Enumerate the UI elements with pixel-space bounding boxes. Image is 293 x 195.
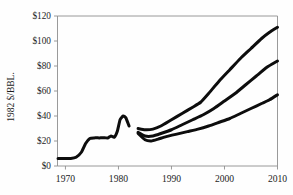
x-axis-ticks: 19701980199020002010 — [56, 166, 287, 184]
x-tick-label: 1970 — [56, 173, 75, 184]
x-tick-label: 1990 — [162, 173, 181, 184]
series-high-projection — [138, 27, 277, 130]
chart-container: $0$20$40$60$80$100$120 19701980199020002… — [0, 0, 293, 195]
series-historical — [58, 116, 129, 159]
line-chart: $0$20$40$60$80$100$120 19701980199020002… — [0, 0, 293, 195]
y-tick-label: $120 — [32, 11, 51, 21]
y-tick-label: $80 — [37, 61, 51, 71]
x-tick-label: 2010 — [268, 173, 287, 184]
y-tick-label: $20 — [37, 136, 51, 146]
data-series-group — [58, 27, 277, 158]
x-tick-label: 1980 — [109, 173, 128, 184]
y-tick-label: $40 — [37, 111, 51, 121]
chart-frame — [58, 16, 278, 166]
x-tick-label: 2000 — [215, 173, 234, 184]
y-axis-title: 1982 $/BBL. — [6, 72, 16, 122]
y-tick-label: $100 — [32, 36, 51, 46]
y-axis-ticks: $0$20$40$60$80$100$120 — [32, 11, 57, 171]
y-tick-label: $60 — [37, 86, 51, 96]
y-tick-label: $0 — [42, 161, 52, 171]
